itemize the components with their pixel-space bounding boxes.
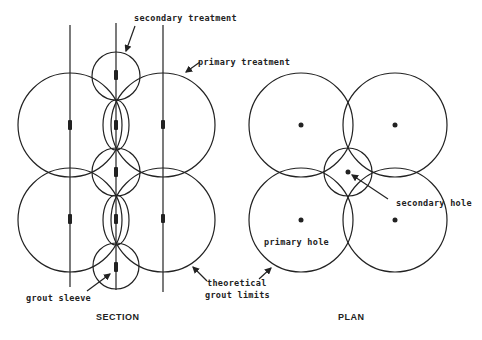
- primary-hole-dot: [299, 123, 304, 128]
- label-grout-sleeve: grout sleeve: [26, 293, 91, 303]
- grout-sleeve-icon: [114, 120, 118, 130]
- grout-sleeve-icon: [161, 214, 165, 223]
- grouting-diagram: [0, 0, 482, 340]
- label-primary-hole: primary hole: [264, 237, 329, 247]
- label-primary-treatment: primary treatment: [198, 57, 290, 67]
- grout-sleeve-icon: [114, 167, 118, 177]
- grout-sleeve-icon: [68, 214, 72, 224]
- section-title: SECTION: [96, 312, 140, 322]
- leader-secondary-treatment: [126, 26, 135, 51]
- grout-sleeve-icon: [68, 120, 72, 130]
- leader-theoretical-left: [193, 267, 207, 281]
- primary-hole-dot: [393, 218, 398, 223]
- label-secondary-hole: secondary hole: [396, 198, 472, 208]
- grout-sleeve-icon: [114, 262, 118, 272]
- primary-hole-dot: [299, 218, 304, 223]
- leader-grout-sleeve: [87, 274, 110, 291]
- plan-holes: [299, 123, 398, 223]
- grout-sleeve-icon: [161, 120, 165, 129]
- primary-hole-dot: [393, 123, 398, 128]
- label-grout-limits: grout limits: [205, 290, 270, 300]
- label-secondary-treatment: secondary treatment: [134, 13, 237, 23]
- label-theoretical: theoretical: [207, 278, 267, 288]
- section-view: [18, 23, 215, 292]
- secondary-hole-dot: [346, 170, 351, 175]
- grout-sleeve-icon: [114, 70, 118, 80]
- leader-secondary-hole: [352, 175, 388, 199]
- grout-sleeve-icon: [114, 214, 118, 224]
- plan-title: PLAN: [338, 312, 365, 322]
